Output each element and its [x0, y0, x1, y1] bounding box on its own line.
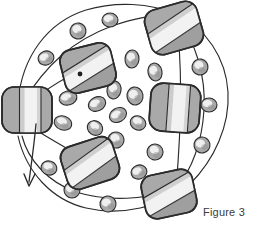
perimeter-bead — [191, 58, 210, 77]
interior-particle — [124, 49, 140, 68]
subunit-left — [2, 87, 52, 133]
subunit-right — [148, 82, 201, 133]
interior-particle — [145, 142, 166, 163]
perimeter-bead — [36, 49, 56, 68]
figure-caption: Figure 3 — [203, 206, 245, 218]
interior-particle — [107, 104, 130, 125]
perimeter-bead — [201, 98, 217, 112]
figure-illustration: Figure 3 — [0, 0, 253, 227]
perimeter-bead — [69, 22, 88, 41]
perimeter-bead — [102, 13, 118, 27]
perimeter-bead — [193, 136, 212, 155]
interior-particle — [126, 86, 145, 107]
connector-end-dot — [78, 72, 83, 77]
interior-particle — [128, 113, 148, 132]
interior-particle — [146, 62, 163, 83]
perimeter-bead — [39, 159, 58, 177]
diagram-canvas — [0, 0, 253, 227]
interior-particle — [86, 94, 108, 114]
interior-particle — [52, 113, 74, 132]
interior-particle — [84, 118, 105, 139]
